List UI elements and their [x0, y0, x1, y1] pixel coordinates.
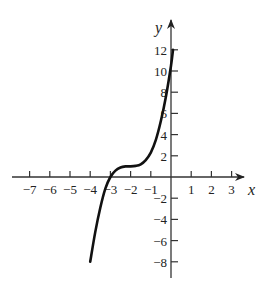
x-tick-label: −7	[23, 182, 37, 197]
x-tick-label: 3	[228, 182, 235, 197]
x-tick-label: −6	[43, 182, 57, 197]
y-tick-label: 10	[154, 64, 167, 79]
y-tick-labels: −8−6−4−224681012	[153, 43, 178, 270]
x-tick-labels: −7−6−5−4−3−2−1123	[23, 171, 235, 197]
y-tick-label: −6	[153, 234, 167, 249]
y-axis-label: y	[153, 19, 163, 37]
x-axis-label: x	[247, 181, 255, 198]
y-tick-label: −2	[153, 191, 167, 206]
x-tick-label: 1	[188, 182, 195, 197]
y-tick-label: 12	[154, 43, 167, 58]
chart-canvas: −7−6−5−4−3−2−1123 −8−6−4−224681012 x y	[0, 0, 277, 294]
y-tick-label: −4	[153, 212, 167, 227]
y-tick-label: −8	[153, 255, 167, 270]
y-tick-label: 4	[161, 128, 168, 143]
y-tick-label: 2	[161, 149, 168, 164]
x-tick-label: −5	[63, 182, 77, 197]
x-tick-label: −4	[83, 182, 97, 197]
x-tick-label: −2	[124, 182, 138, 197]
x-tick-label: 2	[208, 182, 215, 197]
